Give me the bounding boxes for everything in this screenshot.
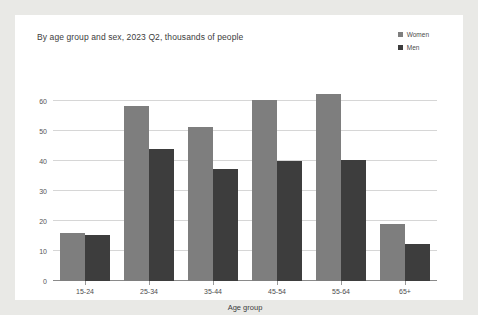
y-axis-tick-label: 60 [39,98,47,105]
bar-men-25-34[interactable] [149,149,174,281]
bar-women-55-64[interactable] [316,94,341,282]
legend-item-men[interactable]: Men [398,44,429,51]
bar-women-45-54[interactable] [252,100,277,282]
bar-men-35-44[interactable] [213,169,238,282]
bar-women-65+[interactable] [380,224,405,281]
bar-men-55-64[interactable] [341,160,366,282]
x-axis-tick-mark [341,281,342,285]
bar-men-45-54[interactable] [277,161,302,281]
legend-label-women: Women [407,31,429,38]
x-axis-tick-mark [85,281,86,285]
legend-item-women[interactable]: Women [398,31,429,38]
legend-label-men: Men [407,44,420,51]
chart-card: By age group and sex, 2023 Q2, thousands… [15,15,463,300]
screenshot-root: By age group and sex, 2023 Q2, thousands… [0,0,478,315]
y-axis-tick-label: 30 [39,188,47,195]
bar-women-15-24[interactable] [60,233,85,281]
x-axis-tick-mark [149,281,150,285]
y-axis-tick-label: 20 [39,218,47,225]
bar-group: 35-44 [181,86,245,281]
x-axis-title: Age group [53,303,437,312]
plot-area: 0102030405060 15-2425-3435-4445-5455-646… [53,86,437,281]
bar-women-25-34[interactable] [124,106,149,282]
y-axis-tick-label: 0 [43,278,47,285]
chart-title: By age group and sex, 2023 Q2, thousands… [37,32,243,42]
bar-men-65+[interactable] [405,244,430,282]
x-axis-tick-label: 55-64 [309,288,373,295]
y-axis-tick-label: 10 [39,248,47,255]
chart-legend: Women Men [398,31,429,51]
bar-group: 25-34 [117,86,181,281]
legend-swatch-women [398,32,403,37]
bar-groups: 15-2425-3435-4445-5455-6465+ [53,86,437,281]
bar-group: 55-64 [309,86,373,281]
bar-group: 65+ [373,86,437,281]
bar-group: 45-54 [245,86,309,281]
y-axis-tick-label: 40 [39,158,47,165]
x-axis-tick-label: 35-44 [181,288,245,295]
bar-men-15-24[interactable] [85,235,110,282]
legend-swatch-men [398,45,403,50]
x-axis-tick-mark [277,281,278,285]
x-axis-tick-label: 45-54 [245,288,309,295]
bar-women-35-44[interactable] [188,127,213,282]
x-axis-tick-mark [405,281,406,285]
x-axis-tick-label: 25-34 [117,288,181,295]
x-axis-tick-label: 15-24 [53,288,117,295]
bar-group: 15-24 [53,86,117,281]
y-axis-tick-label: 50 [39,128,47,135]
x-axis-tick-mark [213,281,214,285]
x-axis-tick-label: 65+ [373,288,437,295]
